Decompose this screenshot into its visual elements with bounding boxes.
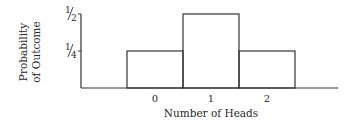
svg-text:1: 1: [65, 42, 71, 52]
x-tick-label-0: 0: [152, 93, 158, 104]
svg-text:2: 2: [71, 13, 77, 23]
y-tick-label-fraction: 12: [65, 5, 77, 23]
svg-text:4: 4: [71, 50, 77, 60]
bar-2: [239, 51, 295, 88]
probability-histogram: 1412 012 Probability of Outcome Number o…: [0, 0, 355, 123]
y-axis-label-line2: of Outcome: [30, 21, 42, 83]
bar-0: [127, 51, 183, 88]
x-tick-label-1: 1: [208, 93, 214, 104]
svg-text:1: 1: [65, 5, 71, 15]
y-axis-label-line1: Probability: [17, 23, 29, 81]
x-tick-label-2: 2: [264, 93, 270, 104]
x-axis-label: Number of Heads: [164, 107, 259, 119]
bar-1: [183, 14, 239, 88]
y-tick-label-fraction: 14: [65, 42, 77, 60]
